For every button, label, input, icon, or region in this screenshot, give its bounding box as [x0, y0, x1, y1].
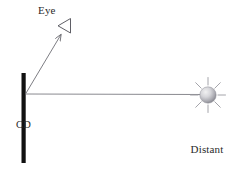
bulb-label-line-1: Distant [178, 143, 236, 155]
optics-diagram: Eye CD Distant light bulb [0, 0, 239, 175]
eye-label: Eye [38, 4, 56, 16]
reflected-ray-to-eye [26, 35, 61, 94]
incident-light-ray [26, 94, 203, 95]
distant-light-bulb-label: Distant light bulb [178, 118, 236, 175]
light-bulb-icon [200, 87, 216, 103]
cd-label: CD [16, 119, 31, 131]
cd-bar [22, 73, 26, 163]
eye-icon [58, 19, 71, 34]
